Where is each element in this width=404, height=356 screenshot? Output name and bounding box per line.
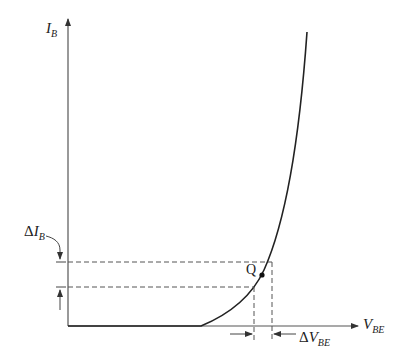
delta-ib-label: ΔIB: [24, 223, 45, 242]
diagram-canvas: IB VBE ΔIB ΔVBE Q: [0, 0, 404, 356]
y-axis-label: IB: [46, 20, 57, 39]
delta-vbe-label: ΔVBE: [299, 329, 330, 348]
q-point-marker: [259, 272, 264, 277]
delta-ib-leader-line: [46, 236, 60, 259]
ib-vbe-curve: [68, 32, 307, 326]
x-axis-label: VBE: [363, 316, 384, 335]
q-point-label: Q: [246, 262, 256, 278]
diagram-graphics: [0, 0, 404, 356]
